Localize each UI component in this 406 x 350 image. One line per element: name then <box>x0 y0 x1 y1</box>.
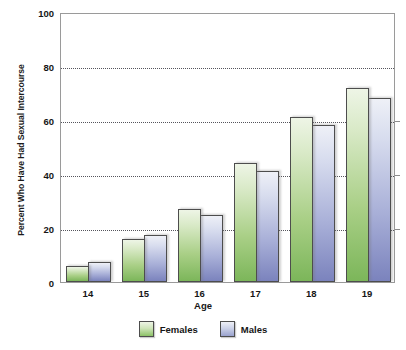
bar-group-age-14 <box>61 262 117 282</box>
chart-legend: Females Males <box>0 321 406 337</box>
bar-group-age-19 <box>340 88 396 282</box>
y-tick-label-0: 0 <box>18 278 54 289</box>
bar-females-age-14 <box>66 266 89 282</box>
bar-males-age-18 <box>312 125 335 282</box>
bar-group-age-17 <box>229 163 285 282</box>
bar-chart: Percent Who Have Had Sexual Intercourse … <box>0 0 406 350</box>
bar-group-age-16 <box>173 209 229 282</box>
legend-swatch-females-icon <box>139 321 154 337</box>
legend-item-males: Males <box>220 321 267 337</box>
legend-label-males: Males <box>241 324 267 335</box>
bar-group-age-18 <box>284 117 340 282</box>
x-tick-label-15: 15 <box>119 288 169 299</box>
y-tick-label-40: 40 <box>18 170 54 181</box>
gridline-80 <box>61 68 394 69</box>
bar-males-age-16 <box>200 215 223 283</box>
x-tick-label-14: 14 <box>63 288 113 299</box>
bar-females-age-15 <box>122 239 145 282</box>
bar-group-age-15 <box>117 235 173 282</box>
legend-item-females: Females <box>139 321 198 337</box>
legend-label-females: Females <box>160 324 198 335</box>
y-tick-label-80: 80 <box>18 62 54 73</box>
x-tick-label-17: 17 <box>230 288 280 299</box>
plot-area <box>60 13 395 283</box>
x-tick-label-18: 18 <box>286 288 336 299</box>
bar-males-age-15 <box>144 235 167 282</box>
bar-males-age-19 <box>368 98 391 282</box>
bar-males-age-14 <box>88 262 111 282</box>
y-tick-label-20: 20 <box>18 224 54 235</box>
x-axis-title: Age <box>0 300 406 311</box>
bar-females-age-18 <box>290 117 313 282</box>
bar-females-age-19 <box>346 88 369 282</box>
x-tick-label-19: 19 <box>342 288 392 299</box>
legend-swatch-males-icon <box>220 321 235 337</box>
x-tick-label-16: 16 <box>175 288 225 299</box>
bar-females-age-17 <box>234 163 257 282</box>
y-tick-label-100: 100 <box>18 8 54 19</box>
bar-females-age-16 <box>178 209 201 282</box>
y-tick-label-60: 60 <box>18 116 54 127</box>
bar-males-age-17 <box>256 171 279 282</box>
